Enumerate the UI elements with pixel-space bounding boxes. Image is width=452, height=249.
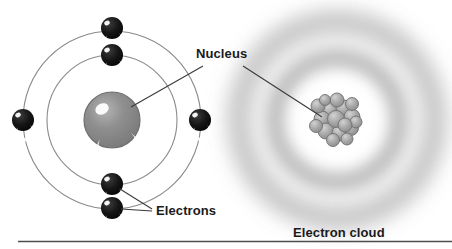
nucleus-leader-left: [131, 66, 203, 107]
electron-outer-left: [12, 109, 34, 142]
electron-cloud-model: [227, 10, 447, 230]
electron-outer-bottom: [101, 197, 123, 230]
cloud-nucleus: [310, 93, 363, 147]
electrons-leader-lower: [121, 209, 152, 211]
label-electron-cloud: Electron cloud: [293, 225, 385, 240]
label-nucleus: Nucleus: [196, 46, 247, 61]
electron-inner-right: [189, 109, 211, 142]
bohr-nucleus: [84, 92, 140, 173]
atom-models-figure: Nucleus Electrons Electron cloud: [0, 0, 452, 249]
bohr-atom-model: [12, 17, 211, 230]
electron-inner-top: [101, 44, 123, 77]
label-electrons: Electrons: [156, 203, 216, 218]
